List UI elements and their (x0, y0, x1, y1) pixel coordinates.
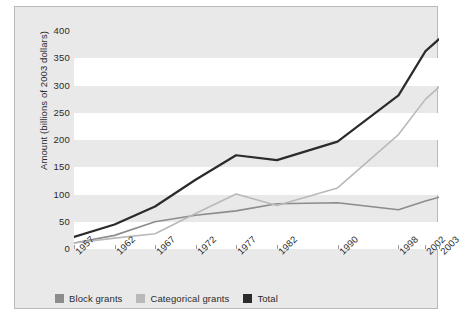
legend-swatch-icon (55, 294, 64, 303)
plot-area (74, 31, 439, 249)
y-tick-label: 250 (36, 108, 70, 118)
y-tick-label: 400 (36, 26, 70, 36)
y-tick-label: 50 (36, 217, 70, 227)
y-axis-ticks: 050100150200250300350400 (33, 31, 70, 249)
y-tick-label: 100 (36, 190, 70, 200)
x-axis-ticks: 1957196219671972197719821990199820022003 (74, 249, 439, 289)
legend-label: Block grants (69, 293, 122, 304)
chart-panel: Amount (billions of 2003 dollars) 050100… (14, 6, 438, 309)
legend-swatch-icon (136, 294, 145, 303)
chart-legend: Block grantsCategorical grantsTotal (55, 291, 278, 305)
y-tick-label: 300 (36, 81, 70, 91)
y-tick-label: 150 (36, 162, 70, 172)
legend-label: Total (257, 293, 278, 304)
legend-item: Categorical grants (136, 293, 229, 304)
legend-item: Block grants (55, 293, 122, 304)
y-tick-label: 350 (36, 53, 70, 63)
legend-label: Categorical grants (150, 293, 229, 304)
y-tick-label: 200 (36, 135, 70, 145)
legend-swatch-icon (243, 294, 252, 303)
series-line (74, 87, 439, 243)
plot-lines (74, 31, 439, 249)
y-tick-label: 0 (36, 244, 70, 254)
legend-item: Total (243, 293, 278, 304)
